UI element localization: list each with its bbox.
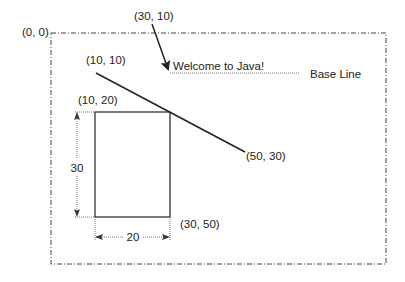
welcome-text: Welcome to Java! <box>173 60 264 72</box>
string-anchor-arrow <box>152 24 168 69</box>
line-start-label: (10, 10) <box>86 54 126 66</box>
string-anchor-label: (30, 10) <box>134 10 174 22</box>
rectangle <box>95 112 170 217</box>
height-label: 30 <box>71 162 84 174</box>
width-label: 20 <box>127 231 140 243</box>
rect-bottom-right-label: (30, 50) <box>180 218 220 230</box>
rect-top-left-label: (10, 20) <box>78 94 118 106</box>
origin-label: (0, 0) <box>22 26 49 38</box>
line-end-label: (50, 30) <box>246 150 286 162</box>
baseline-label: Base Line <box>310 68 361 80</box>
coordinate-diagram: (0, 0) (30, 10) Welcome to Java! Base Li… <box>0 0 405 282</box>
